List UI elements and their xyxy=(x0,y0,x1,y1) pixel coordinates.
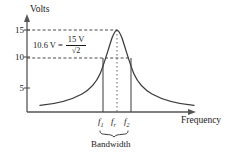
y-tick-label-15: 15 xyxy=(10,26,24,35)
x-tick-label-f2: f2 xyxy=(124,117,130,128)
y-axis-title: Volts xyxy=(30,5,49,15)
bandwidth-caption: Bandwidth xyxy=(91,140,131,149)
equation-denominator-value: 2 xyxy=(76,46,80,55)
half-power-equation: 10.6 V = 15 V √2 xyxy=(33,35,86,55)
axes-group xyxy=(24,14,196,115)
equation-left-side: 10.6 V = xyxy=(33,41,63,50)
equation-numerator: 15 V xyxy=(66,35,87,46)
y-tick-label-5: 5 xyxy=(10,84,24,93)
equation-fraction: 15 V √2 xyxy=(66,35,87,55)
bandwidth-brace xyxy=(100,131,128,137)
chart-canvas xyxy=(0,0,235,156)
x-tick-subscript-r: r xyxy=(114,122,116,128)
x-tick-subscript-2: 2 xyxy=(127,122,130,128)
equation-denominator: √2 xyxy=(72,46,80,55)
y-tick-label-10: 10 xyxy=(10,53,24,62)
x-axis-title: Frequency xyxy=(181,116,221,126)
resonance-curve-figure: Volts Frequency 15 10 5 10.6 V = 15 V √2… xyxy=(0,0,235,156)
x-tick-label-fr: fr xyxy=(111,117,116,128)
x-tick-subscript-1: 1 xyxy=(101,122,104,128)
x-tick-label-f1: f1 xyxy=(98,117,104,128)
y-axis-arrowhead xyxy=(24,14,30,22)
